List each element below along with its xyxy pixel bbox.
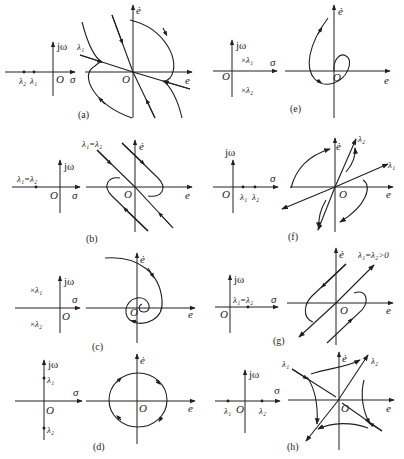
e-label: e xyxy=(188,402,193,414)
e-label: e xyxy=(185,74,190,86)
sigma-label: σ xyxy=(271,293,277,305)
caption-a: (a) xyxy=(78,109,89,121)
sigma-label: σ xyxy=(270,172,276,184)
caption-f: (f) xyxy=(288,231,298,243)
edot-label: ė xyxy=(342,352,347,364)
panel-c: jω σ O ×λ₁ ×λ₂ ė e O (c) xyxy=(15,253,195,353)
origin-label: O xyxy=(222,188,230,200)
origin-label: O xyxy=(220,308,228,320)
panel-f: jω σ O λ₁ λ₂ ė e O λ₂ λ₁ xyxy=(213,134,395,243)
origin-label: O xyxy=(222,70,230,82)
e-label: e xyxy=(386,304,391,316)
jw-label: jω xyxy=(47,358,58,370)
caption-c: (c) xyxy=(92,341,103,353)
sigma-label: σ xyxy=(72,293,78,305)
s-plane-c: jω σ O ×λ₁ ×λ₂ xyxy=(15,275,80,333)
edot-label: ė xyxy=(139,140,144,152)
lambda1-marker: ×λ₁ xyxy=(241,55,253,65)
s-plane-e: jω σ O ×λ₁ ×λ₂ xyxy=(213,39,277,97)
lambda2-label: λ₂ xyxy=(251,192,259,202)
origin-label: O xyxy=(50,189,58,201)
origin-label: O xyxy=(62,310,70,322)
lambda1-label: λ₁ xyxy=(239,192,247,202)
origin-label: O xyxy=(339,188,347,200)
jw-label: jω xyxy=(63,160,74,172)
caption-g: (g) xyxy=(273,335,285,347)
lambda1-marker: ×λ₁ xyxy=(30,285,42,295)
edot-label: ė xyxy=(140,354,145,366)
e-label: e xyxy=(188,308,193,320)
panel-g: jω σ O λ₁=λ₂ ė e O λ₁=λ₂>0 (g) xyxy=(215,248,393,347)
jw-label: jω xyxy=(235,39,246,51)
lambda2-marker: ×λ₂ xyxy=(241,85,253,95)
s-plane-h: jω σ O λ₁ λ₂ xyxy=(215,368,280,433)
jw-label: jω xyxy=(248,368,259,380)
lambda1-line-label: λ₁ xyxy=(387,160,395,170)
caption-e: (e) xyxy=(290,103,301,115)
origin-label: O xyxy=(130,306,138,318)
lambda2-line-label: λ₂ xyxy=(370,356,378,366)
sigma-label: σ xyxy=(70,73,76,85)
phase-portrait-figure: jω σ O λ₂ λ₁ ė e O λ₁ xyxy=(0,0,404,459)
panel-b: jω σ O λ₁=λ₂ ė e O λ₁=λ₂ (b) xyxy=(12,139,192,245)
panel-h: jω σ O λ₁ λ₂ ė e O λ₁ λ₂ xyxy=(215,352,394,453)
s-plane-g: jω σ O λ₁=λ₂ xyxy=(215,273,278,333)
caption-h: (h) xyxy=(287,441,299,453)
caption-b: (b) xyxy=(86,233,98,245)
s-plane-d: jω σ O λ₁ λ₂ xyxy=(15,358,82,440)
edot-label: ė xyxy=(336,140,341,152)
edot-label: ė xyxy=(339,248,344,260)
eigen-label: λ₁=λ₂ xyxy=(16,174,37,184)
phase-plane-b: ė e O λ₁=λ₂ xyxy=(81,139,192,232)
jw-label: jω xyxy=(233,273,244,285)
lambda2-label: λ₂ xyxy=(46,425,54,435)
lambda1-label: λ₁ xyxy=(29,76,37,86)
phase-plane-g: ė e O λ₁=λ₂>0 xyxy=(287,248,393,345)
caption-d: (d) xyxy=(93,441,105,453)
phase-plane-a: ė e O λ₁ xyxy=(76,4,192,118)
jw-label: jω xyxy=(224,146,235,158)
origin-label: O xyxy=(340,304,348,316)
phase-plane-h: ė e O λ₁ λ₂ xyxy=(281,352,394,450)
lambda1-line-label: λ₁ xyxy=(281,359,289,369)
origin-label: O xyxy=(139,402,147,414)
eigen-line-label: λ₁=λ₂>0 xyxy=(357,250,389,260)
s-plane-f: jω σ O λ₁ λ₂ xyxy=(213,146,278,213)
eigen-label: λ₁=λ₂ xyxy=(232,295,253,305)
origin-label: O xyxy=(236,403,244,415)
phase-plane-e: ė e O xyxy=(285,5,390,118)
lambda2-line-label: λ₂ xyxy=(357,134,365,144)
origin-label: O xyxy=(124,188,132,200)
sigma-label: σ xyxy=(270,56,276,68)
panel-d: jω σ O λ₁ λ₂ ė e O (d) xyxy=(15,354,195,453)
sigma-label: σ xyxy=(73,386,79,398)
edot-label: ė xyxy=(338,5,343,17)
e-label: e xyxy=(386,402,391,414)
lambda1-label: λ₁ xyxy=(223,406,231,416)
e-label: e xyxy=(185,189,190,201)
eigen-line-label: λ₁=λ₂ xyxy=(81,139,102,149)
e-label: e xyxy=(386,188,391,200)
origin-label: O xyxy=(122,73,130,85)
s-plane-b: jω σ O λ₁=λ₂ xyxy=(12,160,80,213)
origin-label: O xyxy=(46,404,54,416)
lambda2-label: λ₂ xyxy=(18,76,26,86)
origin-label: O xyxy=(56,73,64,85)
edot-label: ė xyxy=(136,4,141,16)
edot-label: ė xyxy=(140,253,145,265)
lambda2-marker: ×λ₂ xyxy=(30,319,42,329)
phase-plane-c: ė e O xyxy=(86,253,195,343)
jw-label: jω xyxy=(63,275,74,287)
panel-a: jω σ O λ₂ λ₁ ė e O λ₁ xyxy=(5,4,192,121)
lambda2-label: λ₂ xyxy=(258,406,266,416)
panel-e: jω σ O ×λ₁ ×λ₂ ė e O (e) xyxy=(213,5,390,118)
sigma-label: σ xyxy=(72,189,78,201)
sigma-label: σ xyxy=(274,384,280,396)
lambda1-label: λ₁ xyxy=(46,375,54,385)
phase-plane-f: ė e O λ₂ λ₁ xyxy=(282,134,395,232)
e-label: e xyxy=(384,74,389,86)
s-plane-a: jω σ O λ₂ λ₁ xyxy=(5,40,76,96)
lambda1-line-label: λ₁ xyxy=(76,42,84,52)
jw-label: jω xyxy=(56,40,67,52)
phase-plane-d: ė e O xyxy=(86,354,195,444)
